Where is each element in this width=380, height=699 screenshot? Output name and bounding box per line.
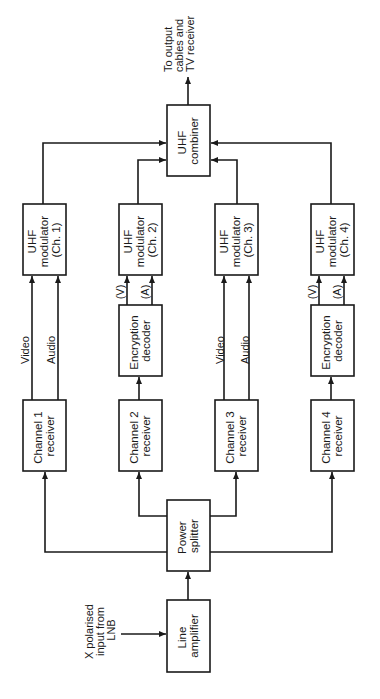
ch4-encryption-decoder-label: Encryption decoder [320, 312, 344, 370]
power-splitter-label: Power splitter [176, 518, 200, 554]
channel-2-receiver-label: Channel 2 receiver [128, 408, 152, 464]
splitter-to-ch1-arrow [45, 472, 167, 552]
ch4-a-label: (A) [331, 285, 343, 300]
block-diagram: Line amplifier Power splitter Channel 1 … [0, 0, 380, 699]
splitter-to-ch4-arrow [210, 472, 332, 552]
ch3-video-label: Video [214, 336, 226, 364]
ch3-audio-label: Audio [239, 336, 251, 364]
channel-4-receiver-label: Channel 4 receiver [320, 408, 344, 464]
lnb-input-label: X polarised input from LNB [83, 601, 117, 659]
ch1-audio-label: Audio [45, 336, 57, 364]
splitter-to-ch3-arrow [210, 472, 236, 516]
channel-3-receiver-label: Channel 3 receiver [224, 408, 248, 464]
ch4-mod-to-combiner-arrow [211, 143, 331, 204]
splitter-to-ch2-arrow [139, 472, 167, 516]
ch1-video-label: Video [19, 336, 31, 364]
ch2-v-label: (V) [114, 285, 126, 300]
ch3-mod-to-combiner-arrow [211, 160, 237, 204]
ch2-a-label: (A) [139, 285, 151, 300]
ch2-encryption-decoder-label: Encryption decoder [128, 312, 152, 370]
channel-1-receiver-label: Channel 1 receiver [32, 408, 56, 464]
output-label: To output cables and TV receiver [162, 15, 196, 72]
ch4-v-label: (V) [306, 285, 318, 300]
ch1-mod-to-combiner-arrow [43, 143, 166, 204]
ch2-mod-to-combiner-arrow [138, 160, 166, 204]
